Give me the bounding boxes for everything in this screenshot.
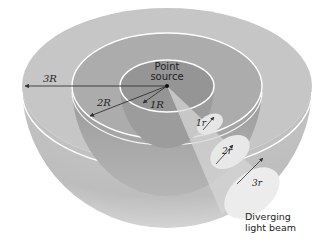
beam-caption-line2: light beam	[245, 222, 296, 233]
label-source: source	[150, 71, 183, 82]
label-2R: 2R	[96, 97, 111, 108]
label-3r: 3r	[252, 178, 263, 188]
point-source-dot	[165, 84, 169, 88]
inverse-square-diagram: Point source 3R 2R 1R 1r 2r 3r Diverging…	[0, 0, 321, 246]
label-1r: 1r	[196, 118, 207, 128]
label-2r: 2r	[221, 146, 233, 156]
label-3R: 3R	[43, 73, 57, 84]
label-1R: 1R	[150, 99, 164, 110]
beam-caption-line1: Diverging	[245, 211, 291, 222]
